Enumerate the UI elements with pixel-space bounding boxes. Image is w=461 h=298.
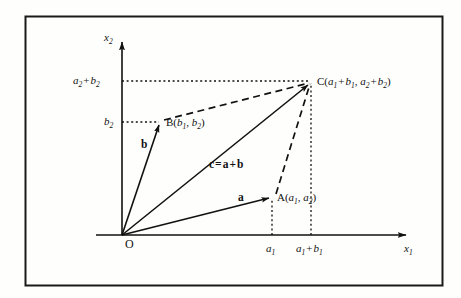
x-axis-label: x1: [404, 243, 413, 254]
vector-label-c-equals-a-plus-b: c=a+b: [209, 159, 243, 171]
dashed-segment-A-to-C: [276, 84, 310, 194]
y-tick-a2-plus-b2: a2+b2: [73, 75, 100, 86]
figure-container: x2 x1 O a2+b2 b2 a1 a1+b1 A(a1, a2) B(b1…: [0, 0, 461, 298]
vector-addition-diagram: [0, 0, 461, 298]
point-label-A: A(a1, a2): [277, 192, 316, 203]
x-tick-a1: a1: [266, 243, 275, 254]
vector-label-b: b: [141, 139, 147, 151]
point-label-B: B(b1, b2): [166, 117, 205, 128]
figure-border: [26, 17, 443, 286]
y-axis-label: x2: [104, 32, 113, 43]
y-tick-b2: b2: [104, 116, 113, 127]
origin-label: O: [125, 238, 134, 250]
point-label-C: C(a1+b1, a2+b2): [317, 76, 391, 87]
vector-label-a: a: [238, 192, 244, 204]
x-tick-a1-plus-b1: a1+b1: [296, 243, 323, 254]
